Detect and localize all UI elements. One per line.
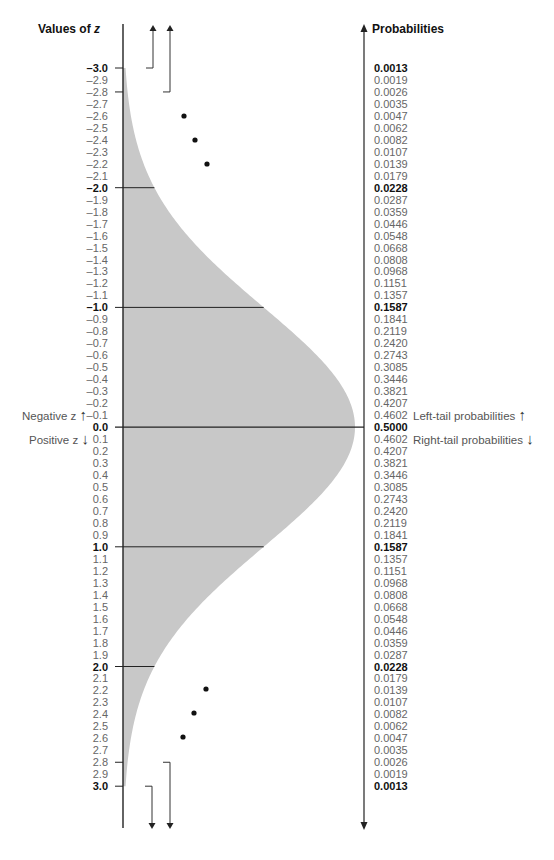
probability-value: 0.0139 <box>374 684 408 696</box>
probability-value: 0.0548 <box>374 613 408 625</box>
z-value: –1.3 <box>48 265 108 277</box>
probability-value: 0.0047 <box>374 732 408 744</box>
probability-value: 0.0107 <box>374 696 408 708</box>
z-value: 3.0 <box>48 780 108 792</box>
right-tail-bracket-3-arrowhead-icon <box>149 823 156 829</box>
z-value: –2.9 <box>48 74 108 86</box>
probability-value: 0.0019 <box>374 74 408 86</box>
probability-value: 0.0808 <box>374 589 408 601</box>
probability-value: 0.1587 <box>374 301 408 313</box>
z-value: 2.7 <box>48 744 108 756</box>
probability-value: 0.0035 <box>374 744 408 756</box>
probability-value: 0.0359 <box>374 637 408 649</box>
z-value: –2.0 <box>48 182 108 194</box>
probability-value: 0.4207 <box>374 445 408 457</box>
up-arrow-icon: ↑ <box>518 406 526 423</box>
z-value: 0.9 <box>48 529 108 541</box>
z-value: –0.9 <box>48 313 108 325</box>
z-value: 2.3 <box>48 696 108 708</box>
probability-value: 0.0082 <box>374 134 408 146</box>
probability-value: 0.0026 <box>374 756 408 768</box>
z-value: 2.0 <box>48 661 108 673</box>
z-value: 2.6 <box>48 732 108 744</box>
z-value: –2.8 <box>48 86 108 98</box>
probability-value: 0.0228 <box>374 661 408 673</box>
z-table-diagram: Values of z Probabilities –3.0–2.9–2.8–2… <box>0 0 554 860</box>
z-value: –1.6 <box>48 230 108 242</box>
z-value: –1.0 <box>48 301 108 313</box>
z-value: 1.3 <box>48 577 108 589</box>
right-tail-bracket-28-arrowhead-icon <box>167 823 174 829</box>
probability-value: 0.0047 <box>374 110 408 122</box>
probability-value: 0.3446 <box>374 469 408 481</box>
probability-value: 0.0062 <box>374 720 408 732</box>
z-value: 0.4 <box>48 469 108 481</box>
ellipsis-dot <box>204 161 209 166</box>
z-value: –2.3 <box>48 146 108 158</box>
probability-value: 0.0968 <box>374 577 408 589</box>
z-value: 2.5 <box>48 720 108 732</box>
z-value: –1.2 <box>48 277 108 289</box>
z-value: 0.3 <box>48 457 108 469</box>
z-value: 1.5 <box>48 601 108 613</box>
probability-value: 0.2420 <box>374 337 408 349</box>
probability-value: 0.0179 <box>374 170 408 182</box>
probability-value: 0.2743 <box>374 493 408 505</box>
probability-value: 0.0446 <box>374 625 408 637</box>
probability-value: 0.4207 <box>374 397 408 409</box>
z-value: 1.2 <box>48 565 108 577</box>
z-value: –0.7 <box>48 337 108 349</box>
positive-z-label: Positive z ↓ <box>29 430 89 447</box>
left-tail-label: Left-tail probabilities ↑ <box>413 406 526 423</box>
right-tail-bracket-3-line <box>145 786 152 823</box>
z-value: –2.7 <box>48 98 108 110</box>
probability-value: 0.0019 <box>374 768 408 780</box>
z-value: –2.5 <box>48 122 108 134</box>
probability-value: 0.3085 <box>374 361 408 373</box>
probability-column-header: Probabilities <box>372 22 444 36</box>
left-tail-bracket-3-arrowhead-icon <box>150 25 157 31</box>
z-value: 2.9 <box>48 768 108 780</box>
probability-value: 0.2119 <box>374 517 407 529</box>
down-arrow-icon: ↓ <box>81 430 89 447</box>
ellipsis-dot <box>192 137 197 142</box>
probability-value: 0.0013 <box>374 780 408 792</box>
probability-value: 0.0228 <box>374 182 408 194</box>
left-tail-bracket-28-arrowhead-icon <box>167 25 174 31</box>
z-value: 1.8 <box>48 637 108 649</box>
z-value: 1.4 <box>48 589 108 601</box>
ellipsis-dot <box>180 734 185 739</box>
z-value: –1.8 <box>48 206 108 218</box>
probability-value: 0.3821 <box>374 457 408 469</box>
probability-value: 0.2743 <box>374 349 408 361</box>
z-value: –1.1 <box>48 289 108 301</box>
z-value: –1.7 <box>48 218 108 230</box>
probability-value: 0.0062 <box>374 122 408 134</box>
z-value: –0.8 <box>48 325 108 337</box>
z-value: 1.0 <box>48 541 108 553</box>
probability-value: 0.4602 <box>374 409 408 421</box>
probability-value: 0.0026 <box>374 86 408 98</box>
z-value: –0.4 <box>48 373 108 385</box>
probability-value: 0.0968 <box>374 265 408 277</box>
down-arrowhead-icon <box>361 822 368 830</box>
probability-value: 0.0446 <box>374 218 408 230</box>
probability-value: 0.3821 <box>374 385 408 397</box>
down-arrow-icon: ↓ <box>526 430 534 447</box>
z-value: 0.6 <box>48 493 108 505</box>
probability-value: 0.0013 <box>374 62 408 74</box>
z-column-header: Values of z <box>38 22 100 36</box>
z-value: 2.4 <box>48 708 108 720</box>
probability-value: 0.1841 <box>374 529 408 541</box>
negative-z-label: Negative z ↑ <box>22 406 87 423</box>
z-value: 0.5 <box>48 481 108 493</box>
z-value: –2.6 <box>48 110 108 122</box>
probability-value: 0.1151 <box>374 277 407 289</box>
z-value: –0.3 <box>48 385 108 397</box>
left-tail-bracket-3-line <box>146 31 153 68</box>
probability-value: 0.0808 <box>374 254 408 266</box>
probability-value: 0.0082 <box>374 708 408 720</box>
z-value: –0.5 <box>48 361 108 373</box>
z-value: –2.4 <box>48 134 108 146</box>
probability-value: 0.0359 <box>374 206 408 218</box>
